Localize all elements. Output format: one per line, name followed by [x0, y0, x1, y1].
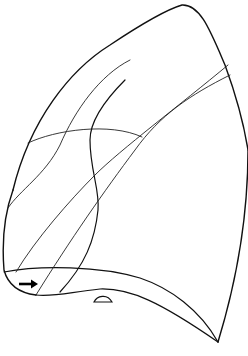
small-dome — [94, 296, 112, 302]
hilar-curve — [60, 80, 125, 292]
lung-outline-left-lower — [3, 190, 36, 295]
fissure-line-left — [8, 60, 130, 208]
lung-outline — [13, 5, 248, 190]
oblique-line-1 — [16, 65, 228, 272]
lung-diagram — [0, 0, 248, 356]
oblique-line-2 — [36, 75, 230, 295]
base-lower-curve — [36, 289, 218, 342]
horizontal-fissure — [28, 129, 142, 143]
arrow-right-icon — [19, 280, 38, 289]
base-upper-curve — [4, 268, 218, 342]
lung-outline-right — [218, 150, 248, 342]
